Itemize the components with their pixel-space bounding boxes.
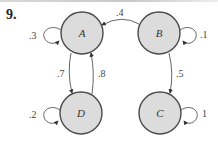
self-loop-b: .1 bbox=[180, 28, 208, 44]
node-c: C bbox=[139, 92, 181, 134]
self-loop-a: .3 bbox=[29, 28, 61, 44]
node-label-a: A bbox=[78, 27, 86, 39]
self-loop-d: .2 bbox=[29, 108, 60, 124]
edge-a-to-d: .7 bbox=[57, 53, 72, 93]
node-label-d: D bbox=[76, 107, 85, 119]
edge-d-to-a: .8 bbox=[91, 53, 106, 94]
edge-label-d-to-d: .2 bbox=[29, 109, 37, 120]
edge-label-b-to-b: .1 bbox=[200, 29, 208, 40]
node-a: A bbox=[61, 12, 103, 54]
node-b: B bbox=[138, 12, 180, 54]
node-label-c: C bbox=[156, 107, 164, 119]
edge-label-b-to-a: .4 bbox=[116, 7, 124, 18]
node-label-b: B bbox=[156, 27, 163, 39]
edge-b-to-c: .5 bbox=[169, 53, 184, 93]
edge-label-a-to-d: .7 bbox=[57, 68, 65, 79]
edge-label-a-to-a: .3 bbox=[29, 30, 37, 41]
markov-chain-diagram: .4 .7 .8 .5 .3 .1 .2 1 A B bbox=[0, 0, 218, 141]
edge-label-d-to-a: .8 bbox=[98, 68, 106, 79]
edge-label-c-to-c: 1 bbox=[202, 108, 207, 119]
self-loop-c: 1 bbox=[181, 108, 207, 124]
edge-b-to-a: .4 bbox=[102, 7, 139, 25]
edge-label-b-to-c: .5 bbox=[176, 68, 184, 79]
node-d: D bbox=[60, 92, 102, 134]
